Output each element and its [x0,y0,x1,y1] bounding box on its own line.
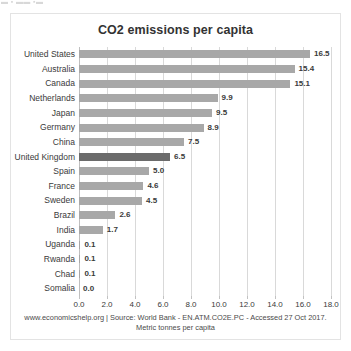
bar [79,153,170,161]
plot-area: United States16.5Australia15.4Canada15.1… [79,47,331,296]
x-tick-label: 16.0 [295,300,311,309]
bar [79,182,143,190]
footer-units-line: Metric tonnes per capita [11,323,340,333]
bar-row: Somalia0.0 [79,282,331,296]
x-tick-label: 14.0 [267,300,283,309]
bar [79,109,212,117]
bar-row: France4.6 [79,179,331,193]
x-tick-label: 18.0 [323,300,339,309]
x-tick [275,296,276,299]
category-label: Uganda [45,240,75,249]
bar-value-label: 9.5 [216,109,227,117]
bar [79,50,310,58]
x-tick-label: 6.0 [157,300,168,309]
bar [79,241,80,249]
x-tick [219,296,220,299]
category-label: Spain [53,167,75,176]
category-label: Australia [42,65,75,74]
bar-value-label: 6.5 [174,153,185,161]
bar-value-label: 16.5 [314,50,330,58]
bar [79,167,149,175]
chart-footer: www.economicshelp.org | Source: World Ba… [11,313,340,333]
x-tick [247,296,248,299]
bar-value-label: 15.1 [294,80,310,88]
bar-value-label: 15.4 [299,65,315,73]
bar [79,138,184,146]
bar-value-label: 9.9 [222,94,233,102]
bar [79,226,103,234]
category-label: Canada [45,79,75,88]
x-axis: 0.02.04.06.08.010.012.014.016.018.0 [79,296,331,310]
bar-value-label: 1.7 [107,226,118,234]
chart-title: CO2 emissions per capita [11,23,340,37]
category-label: Japan [52,109,75,118]
bar [79,124,204,132]
x-tick [107,296,108,299]
scan-edge-artifact: ▬ ▪ ▬▬ ▪▬ [1,0,43,5]
bar [79,211,115,219]
bar [79,94,218,102]
x-tick [331,296,332,299]
bar-value-label: 0.1 [84,270,95,278]
x-tick-label: 2.0 [101,300,112,309]
x-tick [163,296,164,299]
bar-row: China7.5 [79,135,331,149]
bar-row: United States16.5 [79,47,331,61]
x-tick-label: 8.0 [185,300,196,309]
x-tick [191,296,192,299]
bar-row: Sweden4.5 [79,194,331,208]
bar-row: Brazil2.6 [79,208,331,222]
bar [79,80,290,88]
bar-value-label: 4.6 [147,182,158,190]
category-label: France [49,182,75,191]
bar [79,197,142,205]
footer-source-line: www.economicshelp.org | Source: World Ba… [11,313,340,323]
bar-value-label: 4.5 [146,197,157,205]
chart-container: CO2 emissions per capita United States16… [10,13,341,340]
bar-row: Germany8.9 [79,121,331,135]
category-label: Brazil [54,211,75,220]
bar-row: Chad0.1 [79,267,331,281]
category-label: United Kingdom [15,153,75,162]
bar-value-label: 0.1 [84,255,95,263]
x-tick [303,296,304,299]
category-label: Netherlands [29,94,75,103]
category-label: Germany [40,123,75,132]
bar-row: Australia15.4 [79,62,331,76]
category-label: Rwanda [44,255,75,264]
x-tick-label: 12.0 [239,300,255,309]
bar-value-label: 0.0 [83,285,94,293]
x-tick-label: 0.0 [73,300,84,309]
bar-row: Spain5.0 [79,164,331,178]
category-label: Chad [55,270,75,279]
bar [79,270,80,278]
plot-wrapper: United States16.5Australia15.4Canada15.1… [11,47,340,296]
bar [79,255,80,263]
bar-value-label: 0.1 [84,241,95,249]
bar-value-label: 5.0 [153,167,164,175]
x-tick-label: 4.0 [129,300,140,309]
category-label: Sweden [44,196,75,205]
x-tick [135,296,136,299]
bar-rows: United States16.5Australia15.4Canada15.1… [79,47,331,296]
bar-row: Uganda0.1 [79,238,331,252]
bar-value-label: 7.5 [188,138,199,146]
bar-row: Rwanda0.1 [79,252,331,266]
category-label: China [53,138,75,147]
bar-row: Canada15.1 [79,77,331,91]
bar [79,65,295,73]
gridline [331,47,332,296]
x-tick-label: 10.0 [211,300,227,309]
bar-row: Japan9.5 [79,106,331,120]
bar-value-label: 8.9 [208,124,219,132]
bar-row: United Kingdom6.5 [79,150,331,164]
bar-row: India1.7 [79,223,331,237]
bar-value-label: 2.6 [119,211,130,219]
category-label: India [57,226,75,235]
x-tick [79,296,80,299]
category-label: United States [24,50,75,59]
bar-row: Netherlands9.9 [79,91,331,105]
category-label: Somalia [44,284,75,293]
